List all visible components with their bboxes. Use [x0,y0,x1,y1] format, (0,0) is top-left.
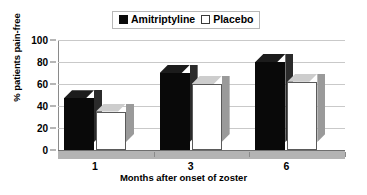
bar-amitriptyline-month-3 [160,73,190,150]
bar-amitriptyline-month-6 [255,62,285,150]
chart-legend: Amitriptyline Placebo [112,11,260,29]
bar-placebo-month-3 [192,84,222,150]
plot-baseline [58,150,345,151]
x-tick-label-1: 1 [92,160,98,172]
legend-swatch-filled-square-icon [119,15,128,24]
bar-front-face [96,112,126,151]
legend-swatch-open-square-icon [201,15,210,24]
y-tick-mark-0 [50,150,56,151]
bar-top-face [64,90,94,98]
bar-placebo-month-6 [287,82,317,150]
bar-front-face [64,98,94,150]
x-tick-mark-1 [249,152,250,157]
bar-group-container [58,40,345,150]
y-tick-mark-20 [50,128,56,129]
bar-front-face [160,73,190,150]
bar-front-face [192,84,222,150]
x-tick-mark-0 [154,152,155,157]
bar-placebo-month-1 [96,112,126,151]
y-tick-label-100: 100 [31,35,48,46]
y-tick-label-80: 80 [37,57,48,68]
bar-front-face [255,62,285,150]
y-tick-mark-80 [50,62,56,63]
bar-side-face [222,76,230,142]
y-tick-label-20: 20 [37,123,48,134]
x-tick-label-3: 3 [188,160,194,172]
legend-entry-placebo: Placebo [201,14,253,25]
x-axis-ticks: 136 [58,152,345,170]
y-tick-label-40: 40 [37,101,48,112]
bar-side-face [317,74,325,142]
legend-label-amitriptyline: Amitriptyline [131,14,195,25]
bar-chart: Amitriptyline Placebo % patients pain-fr… [0,0,367,195]
y-tick-mark-100 [50,40,56,41]
x-axis-title: Months after onset of zoster [0,172,367,183]
y-tick-mark-40 [50,106,56,107]
bar-amitriptyline-month-1 [64,98,94,150]
legend-label-placebo: Placebo [213,14,253,25]
y-axis-ticks: 020406080100 [0,40,56,150]
legend-entry-amitriptyline: Amitriptyline [119,14,195,25]
bar-side-face [126,104,134,143]
y-tick-mark-60 [50,84,56,85]
bar-top-face [255,54,285,62]
x-tick-mark-2 [345,152,346,157]
y-tick-label-0: 0 [42,145,48,156]
bar-top-face [160,65,190,73]
bar-front-face [287,82,317,150]
x-tick-label-6: 6 [283,160,289,172]
y-tick-label-60: 60 [37,79,48,90]
